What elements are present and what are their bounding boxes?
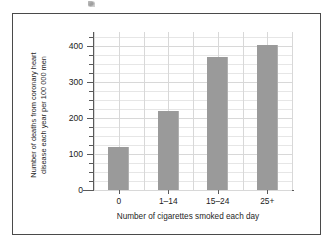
y-axis-tick-major <box>87 118 94 119</box>
x-axis-tick-label: 25+ <box>260 197 274 205</box>
y-axis-tick-minor <box>89 91 94 92</box>
y-axis-tick-major <box>87 46 94 47</box>
y-axis-tick-label: 0 <box>21 186 83 195</box>
y-axis-tick-minor <box>89 181 94 182</box>
bar <box>257 45 278 190</box>
y-axis-tick-label: 200 <box>21 114 83 123</box>
y-axis-tick-minor <box>89 100 94 101</box>
x-axis-tick-label: 0 <box>116 197 121 205</box>
gridline-vertical <box>292 32 293 190</box>
y-axis-tick-minor <box>89 73 94 74</box>
y-axis-tick-major <box>87 154 94 155</box>
y-axis-tick-minor <box>89 109 94 110</box>
y-axis-tick-labels: 0100200300400 <box>13 14 83 234</box>
x-axis-tick <box>267 190 268 194</box>
gridline-horizontal-major <box>94 190 292 191</box>
y-axis-tick-minor <box>89 55 94 56</box>
gridline-vertical <box>193 32 194 190</box>
y-axis-tick-label: 300 <box>21 78 83 87</box>
x-axis-tick <box>218 190 219 194</box>
gridline-vertical <box>144 32 145 190</box>
y-axis-tick-minor <box>89 64 94 65</box>
bar <box>207 57 228 190</box>
y-axis-tick-minor <box>89 172 94 173</box>
gridline-vertical <box>243 32 244 190</box>
plot-area <box>94 32 292 190</box>
bar <box>158 111 179 190</box>
y-axis-tick-minor <box>89 145 94 146</box>
x-axis-tick-label: 15–24 <box>206 197 229 205</box>
y-axis-tick-label: 100 <box>21 150 83 159</box>
figure-frame: Number of deaths from coronary heart dis… <box>12 13 321 235</box>
bar-chart: Number of deaths from coronary heart dis… <box>13 14 320 234</box>
y-axis-tick-minor <box>89 136 94 137</box>
y-axis-tick-minor <box>89 127 94 128</box>
y-axis-tick-label: 400 <box>21 42 83 51</box>
y-axis-tick-major <box>87 190 94 191</box>
x-axis-tick <box>168 190 169 194</box>
y-axis-tick-minor <box>89 37 94 38</box>
scan-artifact <box>88 1 95 7</box>
x-axis-title: Number of cigarettes smoked each day <box>68 212 308 221</box>
gridline-vertical <box>94 32 95 190</box>
y-axis-tick-major <box>87 82 94 83</box>
bar <box>108 147 129 190</box>
y-axis-tick-minor <box>89 163 94 164</box>
x-axis-tick-label: 1–14 <box>159 197 178 205</box>
x-axis-tick <box>119 190 120 194</box>
